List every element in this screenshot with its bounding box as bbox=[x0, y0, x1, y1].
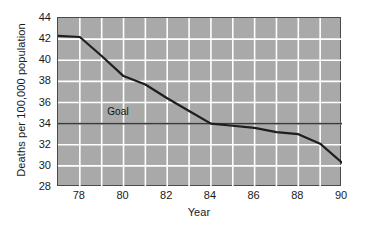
x-tick-label: 78 bbox=[67, 190, 91, 201]
y-axis-title: Deaths per 100,000 population bbox=[12, 10, 30, 190]
y-tick-label: 40 bbox=[29, 54, 51, 65]
y-tick-label: 32 bbox=[29, 139, 51, 150]
x-tick-label: 88 bbox=[285, 190, 309, 201]
x-tick-label: 90 bbox=[329, 190, 353, 201]
goal-annotation-label: Goal bbox=[107, 107, 129, 117]
plot-area bbox=[57, 17, 341, 186]
y-tick-label: 28 bbox=[29, 181, 51, 192]
x-tick-label: 84 bbox=[198, 190, 222, 201]
y-tick-label: 44 bbox=[29, 12, 51, 23]
x-tick-label: 80 bbox=[111, 190, 135, 201]
x-tick-label: 82 bbox=[154, 190, 178, 201]
y-tick-label: 36 bbox=[29, 97, 51, 108]
data-series-line bbox=[58, 36, 342, 163]
x-tick-label: 86 bbox=[242, 190, 266, 201]
y-tick-label: 30 bbox=[29, 160, 51, 171]
x-axis-title: Year bbox=[57, 206, 341, 218]
y-tick-label: 42 bbox=[29, 33, 51, 44]
y-tick-label: 38 bbox=[29, 75, 51, 86]
y-tick-label: 34 bbox=[29, 118, 51, 129]
chart-container: Deaths per 100,000 population 2830323436… bbox=[0, 0, 368, 234]
plot-svg bbox=[58, 18, 342, 187]
